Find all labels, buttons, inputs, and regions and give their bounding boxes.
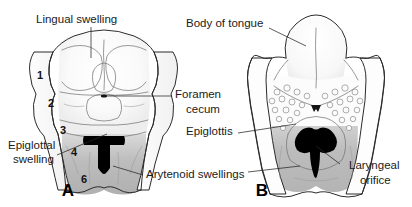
arch-number-4: 4 (71, 146, 78, 158)
label-laryngeal-orifice-line1: Laryngeal (349, 159, 400, 171)
panel-a-foramen-cecum-pit (101, 95, 107, 98)
arch-number-3: 3 (60, 124, 66, 136)
label-lingual-swelling: Lingual swelling (36, 13, 117, 25)
arch-number-2: 2 (48, 97, 54, 109)
label-body-of-tongue: Body of tongue (186, 17, 263, 29)
anatomy-figure: Lingual swelling Epiglottal swelling 1 2… (0, 0, 412, 207)
label-epiglottis: Epiglottis (186, 125, 233, 137)
label-arytenoid-swellings: Arytenoid swellings (146, 168, 245, 180)
panel-letter-a: A (62, 181, 74, 200)
panel-a-tongue-mass (58, 32, 150, 134)
label-foramen-cecum-line2: cecum (186, 103, 220, 115)
panel-letter-b: B (256, 181, 268, 200)
label-epiglottal-swelling-line2: swelling (13, 153, 54, 165)
label-foramen-cecum-line1: Foramen (175, 88, 221, 100)
figure-canvas: Lingual swelling Epiglottal swelling 1 2… (0, 0, 412, 207)
arch-number-1: 1 (37, 69, 43, 81)
arch-number-6: 6 (81, 173, 87, 185)
label-epiglottal-swelling-line1: Epiglottal (8, 139, 55, 151)
label-laryngeal-orifice-line2: orifice (360, 174, 391, 186)
